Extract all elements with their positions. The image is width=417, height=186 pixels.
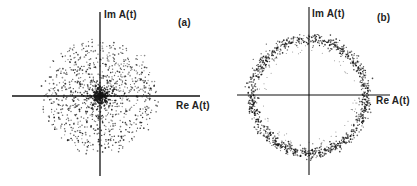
x-axis-label-a: Re A(t) [176,100,210,111]
figure-canvas [0,0,417,186]
y-axis-label-b: Im A(t) [312,8,345,19]
panel-label-b: (b) [377,12,390,23]
panel-label-a: (a) [178,17,191,28]
y-axis-label-a: Im A(t) [104,9,137,20]
x-axis-label-b: Re A(t) [376,95,410,106]
